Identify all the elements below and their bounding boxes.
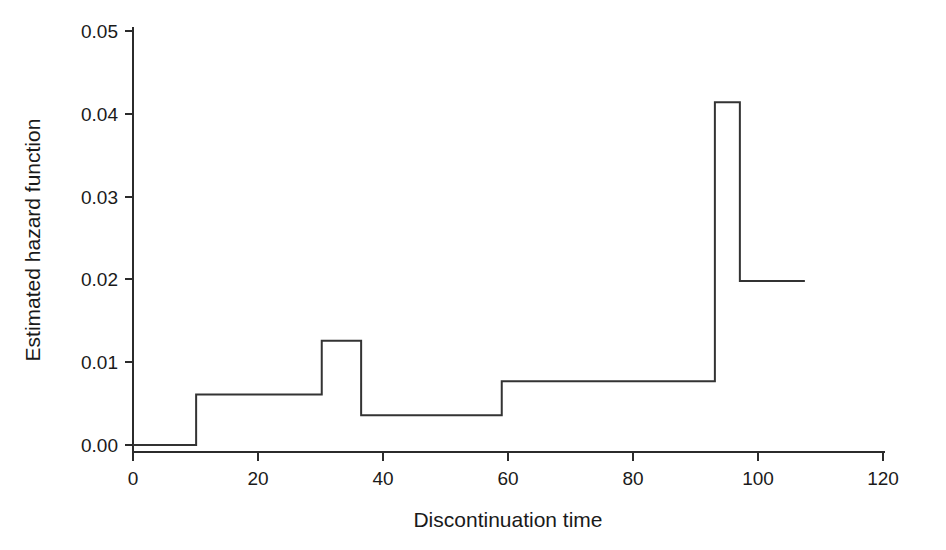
y-tick-label-1: 0.01 — [81, 352, 118, 373]
x-tick-label-5: 100 — [742, 468, 774, 489]
y-tick-label-0: 0.00 — [81, 435, 118, 456]
x-tick-label-4: 80 — [622, 468, 643, 489]
hazard-function-figure: 0.00 0.01 0.02 0.03 0.04 0.05 0 20 40 60… — [0, 0, 946, 550]
x-tick-label-3: 60 — [497, 468, 518, 489]
y-tick-label-4: 0.04 — [81, 104, 118, 125]
y-axis-tick-labels: 0.00 0.01 0.02 0.03 0.04 0.05 — [81, 21, 118, 456]
chart-canvas: 0.00 0.01 0.02 0.03 0.04 0.05 0 20 40 60… — [0, 0, 946, 550]
x-tick-label-1: 20 — [247, 468, 268, 489]
x-axis-tick-labels: 0 20 40 60 80 100 120 — [128, 468, 899, 489]
x-tick-label-2: 40 — [372, 468, 393, 489]
y-tick-label-3: 0.03 — [81, 187, 118, 208]
x-axis-ticks — [133, 452, 883, 461]
y-tick-label-5: 0.05 — [81, 21, 118, 42]
y-tick-label-2: 0.02 — [81, 269, 118, 290]
y-axis-title: Estimated hazard function — [21, 119, 44, 362]
x-tick-label-6: 120 — [867, 468, 899, 489]
x-tick-label-0: 0 — [128, 468, 139, 489]
x-axis-title: Discontinuation time — [413, 508, 602, 531]
hazard-step-curve — [133, 102, 805, 445]
y-axis-ticks — [125, 31, 133, 445]
